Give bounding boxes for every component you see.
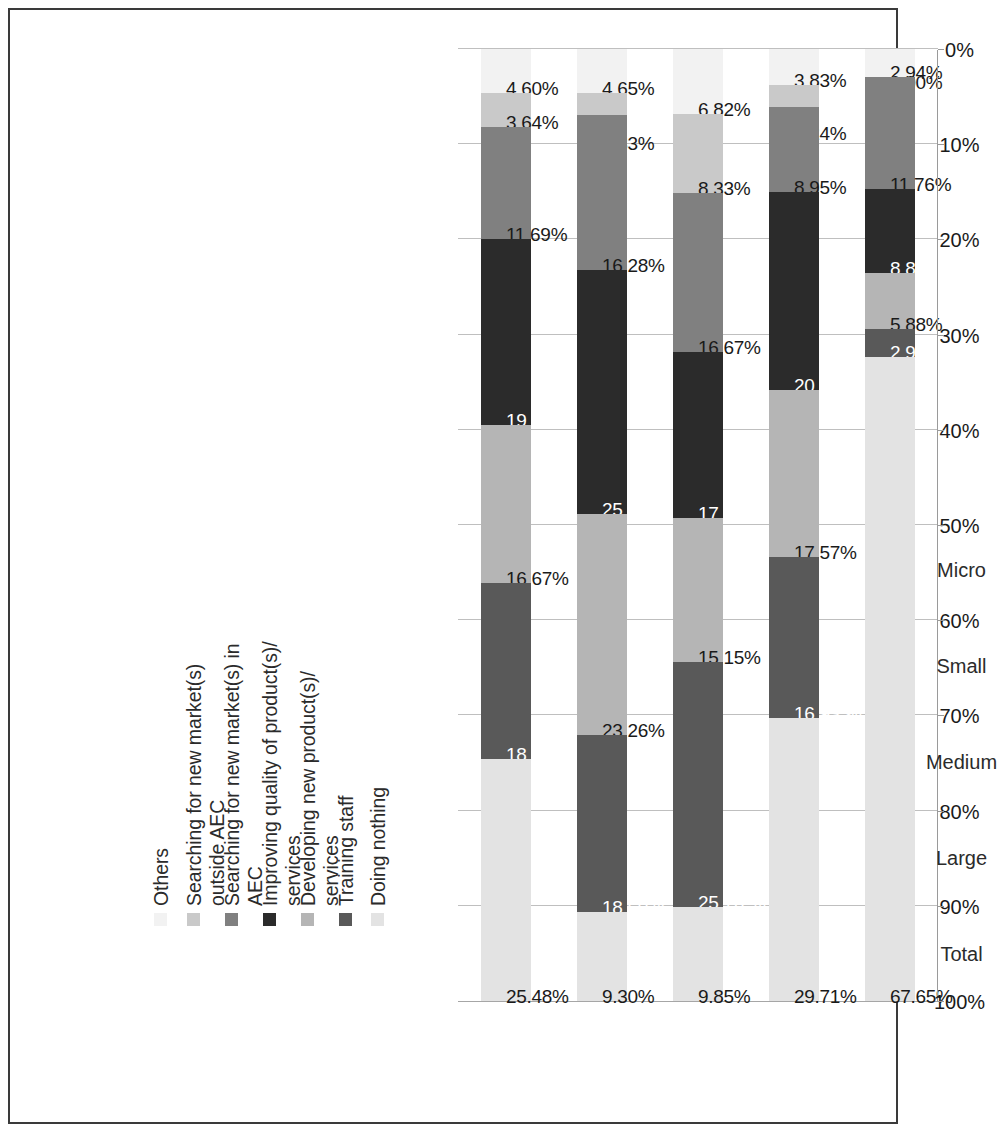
axis-tick-mark	[938, 715, 944, 716]
legend-item[interactable]: Developing new product(s)/ services	[297, 10, 331, 926]
bar-segment[interactable]: 2.94%	[865, 329, 915, 357]
plot-area: 4.60%3.64%11.69%19.54 %16.67%18.39 %25.4…	[458, 50, 938, 1002]
bar-segment[interactable]: 20.77 %	[769, 192, 819, 390]
bar-segment-value-label: 25.48%	[506, 986, 569, 1008]
value-axis-tick-label: 30%	[939, 324, 979, 347]
axis-tick-mark	[938, 906, 944, 907]
axis-tick-mark	[938, 1001, 944, 1002]
legend-swatch-icon	[301, 913, 314, 926]
value-axis-labels: 100%90%80%70%60%50%40%30%20%10%0%	[948, 50, 1001, 1002]
axis-tick-mark	[938, 144, 944, 145]
bar-segment[interactable]: 18.39 %	[481, 583, 531, 758]
stacked-bar[interactable]: 6.82%8.33%16.67%17.42 %15.15%25.76 %9.85…	[673, 50, 723, 1001]
bar-segment[interactable]: 11.69%	[481, 127, 531, 238]
axis-tick-mark	[938, 335, 944, 336]
legend-item[interactable]: Searching for new market(s) outside AEC	[183, 10, 217, 926]
bar-segment[interactable]: 8.82 %	[865, 189, 915, 273]
legend-item[interactable]: Improving quality of product(s)/ service…	[259, 10, 293, 926]
chart-legend: OthersSearching for new market(s) outsid…	[150, 10, 400, 1122]
bar-segment[interactable]: 2.33%	[577, 93, 627, 115]
bar-segment[interactable]: 5.88%	[865, 273, 915, 329]
bar-segment[interactable]: 11.76%	[865, 77, 915, 189]
bar-segment[interactable]: 9.30%	[577, 912, 627, 1001]
value-axis-tick-label: 0%	[945, 39, 974, 62]
bar-segment[interactable]: 25.58 %	[577, 270, 627, 514]
axis-tick-mark	[938, 430, 944, 431]
legend-item[interactable]: Doing nothing	[367, 10, 396, 926]
bar-segment-value-label: 9.30%	[602, 986, 654, 1008]
legend-swatch-icon	[263, 913, 276, 926]
bar-segment[interactable]: 25.48%	[481, 759, 531, 1002]
axis-tick-mark	[938, 239, 944, 240]
bar-segment[interactable]: 8.33%	[673, 114, 723, 193]
bar-segment[interactable]: 23.26%	[577, 514, 627, 735]
bar-segment[interactable]: 16.28%	[577, 115, 627, 270]
legend-swatch-icon	[339, 913, 352, 926]
bar-segment[interactable]: 19.54 %	[481, 239, 531, 425]
bar-segment-value-label: 9.85%	[698, 986, 750, 1008]
bar-segment[interactable]: 16.67%	[481, 425, 531, 584]
value-axis-tick-label: 100%	[934, 991, 985, 1014]
legend-item[interactable]: Others	[150, 10, 179, 926]
legend-item-label: Others	[150, 848, 173, 906]
bar-segment[interactable]: 25.76 %	[673, 662, 723, 907]
bar-segment[interactable]: 16.93 %	[769, 557, 819, 718]
value-axis-tick-label: 80%	[939, 800, 979, 823]
bar-segment[interactable]: 4.60%	[481, 49, 531, 93]
value-axis-tick-label: 10%	[939, 134, 979, 157]
plot-area-wrapper: 4.60%3.64%11.69%19.54 %16.67%18.39 %25.4…	[440, 10, 1000, 1122]
bar-segment[interactable]: 18.60 %	[577, 735, 627, 912]
stacked-bar[interactable]: 4.65%2.33%16.28%25.58 %23.26%18.60 %9.30…	[577, 50, 627, 1001]
bar-segment-value-label: 29.71%	[794, 986, 857, 1008]
stacked-bar[interactable]: 4.60%3.64%11.69%19.54 %16.67%18.39 %25.4…	[481, 50, 531, 1001]
legend-swatch-icon	[187, 913, 200, 926]
bar-segment[interactable]: 8.95%	[769, 107, 819, 192]
bar-segment[interactable]: 6.82%	[673, 49, 723, 114]
value-axis-tick-label: 70%	[939, 705, 979, 728]
bar-segment[interactable]: 15.15%	[673, 518, 723, 662]
axis-tick-mark	[938, 525, 944, 526]
bar-segment[interactable]: 17.57%	[769, 390, 819, 557]
bar-segment[interactable]: 3.83%	[769, 49, 819, 85]
legend-swatch-icon	[154, 913, 167, 926]
bar-segment[interactable]: 67.65%	[865, 357, 915, 1001]
legend-item-label: Doing nothing	[367, 787, 390, 906]
bar-segment[interactable]: 17.42 %	[673, 352, 723, 518]
rotated-chart-canvas: OthersSearching for new market(s) outsid…	[10, 10, 896, 1122]
value-axis-tick-label: 40%	[939, 419, 979, 442]
legend-item[interactable]: Searching for new market(s) in AEC	[221, 10, 255, 926]
axis-tick-mark	[938, 811, 944, 812]
axis-tick-mark	[938, 620, 944, 621]
stacked-bar[interactable]: 3.83%2.24%8.95%20.77 %17.57%16.93 %29.71…	[769, 50, 819, 1001]
bar-segment[interactable]: 3.64%	[481, 93, 531, 128]
value-axis-tick-label: 90%	[939, 895, 979, 918]
stacked-bar[interactable]: 2.94%0.00%11.76%8.82 %5.88%2.94%67.65%	[865, 50, 915, 1001]
legend-swatch-icon	[225, 913, 238, 926]
bar-segment[interactable]: 9.85%	[673, 907, 723, 1001]
legend-item-label: Training staff	[335, 796, 358, 906]
axis-tick-mark	[938, 49, 944, 50]
bar-segment[interactable]: 29.71%	[769, 718, 819, 1001]
legend-swatch-icon	[371, 913, 384, 926]
figure-frame: OthersSearching for new market(s) outsid…	[8, 8, 898, 1124]
legend-item[interactable]: Training staff	[335, 10, 364, 926]
value-axis-tick-label: 60%	[939, 610, 979, 633]
value-axis-tick-label: 20%	[939, 229, 979, 252]
bar-segment[interactable]: 16.67%	[673, 193, 723, 352]
bar-segment[interactable]: 4.65%	[577, 49, 627, 93]
value-axis-tick-label: 50%	[939, 515, 979, 538]
bar-segment[interactable]: 2.24%	[769, 85, 819, 106]
